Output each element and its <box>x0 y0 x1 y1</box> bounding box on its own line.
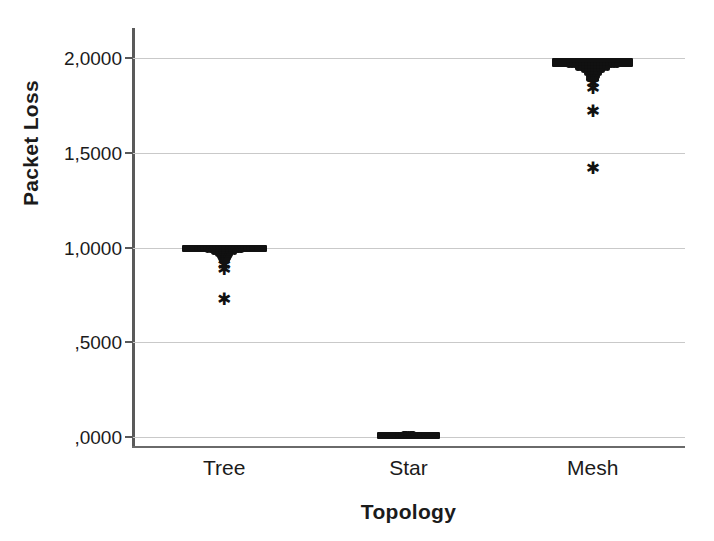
data-point <box>605 65 611 71</box>
gridline <box>132 153 685 154</box>
data-point <box>614 62 620 68</box>
outlier-marker: ✱ <box>585 103 601 119</box>
y-axis-tick-mark <box>125 341 133 343</box>
y-axis-tick-label: ,5000 <box>22 333 122 352</box>
x-axis-line <box>132 446 685 448</box>
x-axis-title: Topology <box>132 500 685 524</box>
x-axis-tick-label-tree: Tree <box>144 456 304 480</box>
y-axis-tick-label: 2,0000 <box>22 49 122 68</box>
plot-area: ✱✱✱✱✱✱✱ <box>132 28 685 448</box>
y-axis-tick-label: ,0000 <box>22 428 122 447</box>
y-axis-tick-label: 1,5000 <box>22 144 122 163</box>
x-axis-tick-label-mesh: Mesh <box>513 456 673 480</box>
packet-loss-scatter-chart: Packet Loss ,0000,50001,00001,50002,0000… <box>0 0 714 541</box>
x-axis-tick-label-star: Star <box>329 456 489 480</box>
y-axis-line <box>132 28 135 448</box>
y-axis-tick-mark <box>125 57 133 59</box>
y-axis-tick-label: 1,0000 <box>22 239 122 258</box>
gridline <box>132 342 685 343</box>
outlier-marker: ✱ <box>585 80 601 96</box>
data-point <box>417 432 423 438</box>
data-point <box>238 248 244 254</box>
y-axis-tick-mark <box>125 152 133 154</box>
data-point <box>410 431 416 437</box>
y-axis-tick-label-group: ,0000,50001,00001,50002,0000 <box>22 0 122 541</box>
y-axis-tick-mark <box>125 247 133 249</box>
outlier-marker: ✱ <box>216 261 232 277</box>
outlier-marker: ✱ <box>585 160 601 176</box>
data-point <box>249 246 255 252</box>
y-axis-tick-mark <box>125 436 133 438</box>
outlier-marker: ✱ <box>216 291 232 307</box>
